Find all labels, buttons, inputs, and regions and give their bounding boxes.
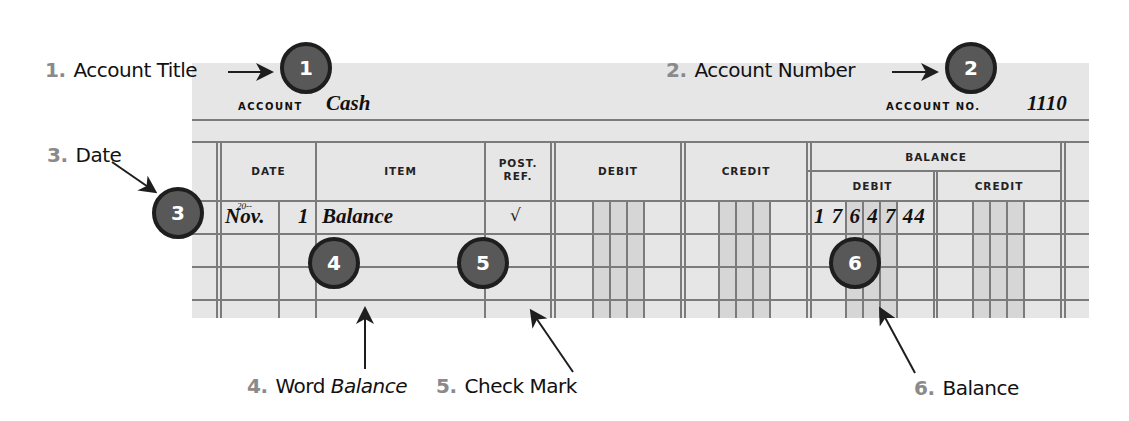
marker-1: 1 [280,42,332,94]
callout-number: 3. [47,143,68,167]
callout-5-check-mark: 5.Check Mark [436,374,577,398]
marker-5: 5 [457,237,509,289]
callout-number: 6. [914,376,935,400]
marker-2: 2 [945,42,997,94]
arrow-5 [532,312,573,372]
callout-number: 5. [436,374,457,398]
callout-text: Check Mark [465,374,577,398]
callout-text: Account Number [695,58,855,82]
callout-4-word-balance: 4.Word Balance [247,374,407,398]
callout-3-date: 3.Date [47,143,121,167]
callout-number: 4. [247,374,268,398]
callout-number: 2. [666,58,687,82]
callout-6-balance: 6.Balance [914,376,1019,400]
callout-text-italic: Balance [331,374,407,398]
marker-4: 4 [308,237,360,289]
callout-text: Date [76,143,122,167]
callout-number: 1. [45,58,66,82]
marker-6: 6 [829,237,881,289]
callout-1-account-title: 1.Account Title [45,58,197,82]
callout-text: Balance [943,376,1019,400]
callout-2-account-number: 2.Account Number [666,58,855,82]
arrow-6 [881,310,915,373]
callout-text: Account Title [74,58,197,82]
marker-3: 3 [152,187,204,239]
callout-text: Word [276,374,331,398]
